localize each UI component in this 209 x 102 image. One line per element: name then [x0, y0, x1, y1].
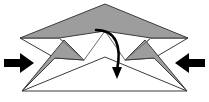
left-push-arrow-shaft: [4, 59, 22, 67]
origami-diagram-canvas: Origami fold step diagram A flat paper m…: [0, 0, 209, 102]
origami-diagram-figure: Origami fold step diagram A flat paper m…: [0, 0, 209, 102]
right-push-arrow-shaft: [187, 59, 205, 67]
